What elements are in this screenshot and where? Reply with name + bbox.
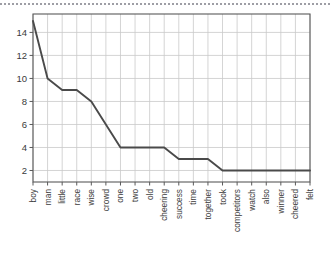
x-tick-label: winner	[276, 189, 286, 215]
plot-area-background	[33, 14, 310, 182]
x-tick-label: success	[174, 189, 184, 219]
y-tick-label: 8	[22, 96, 27, 107]
y-tick-label: 2	[22, 165, 27, 176]
x-tick-label: also	[261, 189, 271, 205]
y-axis-ticks: 2468101214	[16, 27, 33, 176]
x-tick-label: man	[43, 189, 53, 206]
x-tick-label: together	[203, 189, 213, 220]
y-tick-label: 14	[16, 27, 27, 38]
x-tick-label: one	[115, 189, 125, 203]
x-tick-label: old	[145, 189, 155, 200]
x-tick-label: felt	[305, 188, 315, 200]
y-tick-label: 6	[22, 119, 27, 130]
x-tick-label: cheered	[290, 189, 300, 219]
x-tick-label: took	[218, 188, 228, 205]
x-axis-labels: boymanlittleracewisecrowdonetwooldcheeri…	[28, 188, 315, 232]
chart-figure: 2468101214 boymanlittleracewisecrowdonet…	[0, 0, 330, 261]
x-tick-label: cheering	[159, 189, 169, 221]
y-tick-label: 12	[16, 50, 27, 61]
x-tick-label: little	[57, 189, 67, 204]
x-tick-label: wise	[86, 189, 96, 207]
x-tick-label: boy	[28, 188, 38, 202]
x-tick-label: watch	[247, 189, 257, 212]
x-tick-label: crowd	[101, 189, 111, 212]
x-tick-label: two	[130, 189, 140, 202]
x-tick-label: competitors	[232, 189, 242, 232]
y-tick-label: 10	[16, 73, 27, 84]
x-tick-label: race	[72, 189, 82, 206]
y-tick-label: 4	[22, 142, 27, 153]
line-chart-plot: 2468101214 boymanlittleracewisecrowdonet…	[0, 0, 330, 261]
x-tick-label: time	[188, 189, 198, 205]
